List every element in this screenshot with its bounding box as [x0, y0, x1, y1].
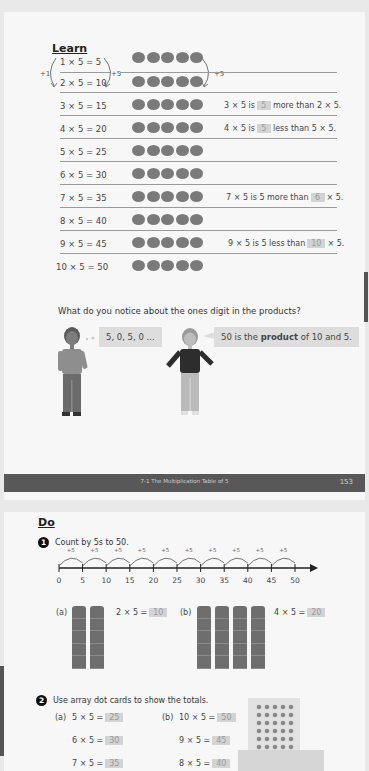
tick-label: 40	[243, 576, 253, 585]
row-divider	[60, 253, 337, 254]
tick-label: 5	[80, 576, 85, 585]
part-a-equation: 2 × 5 =10	[116, 608, 169, 617]
dot-card-base	[238, 750, 324, 771]
answer-box: 6	[311, 193, 325, 202]
dot-row-2	[132, 76, 203, 87]
q2-b-row-1: 10 × 5 =50	[179, 713, 238, 722]
dot-row-9	[132, 237, 203, 248]
q2-part-a-label: (a)	[55, 713, 66, 722]
row-divider	[60, 72, 110, 73]
tick-label: 10	[101, 576, 111, 585]
answer-box: 10	[307, 239, 325, 248]
dot-row-4	[132, 122, 203, 133]
chapter-tab-right	[364, 272, 368, 322]
answer-box: 25	[105, 713, 123, 722]
jump-label: +5	[161, 547, 169, 553]
tick-label: 15	[125, 576, 135, 585]
dot-row-10	[132, 260, 203, 271]
cube-tower	[233, 606, 247, 669]
part-b-equation: 4 × 5 =20	[274, 608, 327, 617]
tick-label: 20	[149, 576, 159, 585]
equation-row-8: 8 × 5 = 40	[60, 216, 107, 226]
row-divider	[120, 72, 337, 73]
answer-box: 50	[217, 713, 235, 722]
tick-label: 30	[196, 576, 206, 585]
jump-label: +5	[208, 547, 216, 553]
note-row-7: 7 × 5 is 5 more than6× 5.	[226, 193, 343, 202]
dot-row-7	[132, 191, 203, 202]
equation-row-10: 10 × 5 = 50	[56, 262, 108, 272]
answer-box: 5	[257, 124, 271, 133]
note-row-4: 4 × 5 is5less than 5 × 5.	[224, 124, 336, 133]
equation-row-6: 6 × 5 = 30	[60, 170, 107, 180]
cube-tower	[251, 606, 265, 669]
dot-array-icon	[256, 704, 296, 750]
row-divider	[60, 92, 337, 93]
textbook-page-154: Do 1Count by 5s to 50. +5 +5 +5 +5 +5 +5…	[4, 512, 365, 771]
note-row-9: 9 × 5 is 5 less than10× 5.	[228, 239, 344, 248]
jump-label: +5	[279, 547, 287, 553]
do-heading: Do	[38, 516, 55, 529]
tick-label: 25	[172, 576, 182, 585]
equation-row-7: 7 × 5 = 35	[60, 193, 107, 203]
dot-row-3	[132, 99, 203, 110]
part-a-label: (a)	[56, 608, 67, 617]
cube-tower	[72, 606, 86, 669]
jump-label: +5	[256, 547, 264, 553]
equation-row-4: 4 × 5 = 20	[60, 124, 107, 134]
question-2: 2Use array dot cards to show the totals.	[36, 690, 208, 709]
textbook-page-153: Learn +1 +5 +5 1 × 5 = 5 2 × 5 = 10 3 × …	[4, 12, 365, 500]
jump-label: +5	[114, 547, 122, 553]
row-divider	[60, 161, 337, 162]
page-footer: 7-1 The Multiplication Table of 5 153	[4, 474, 365, 492]
jump-label: +5	[67, 547, 75, 553]
page-number: 153	[340, 478, 353, 486]
q2-b-row-3: 8 × 5 =40	[179, 759, 232, 768]
jump-label: +5	[138, 547, 146, 553]
footer-lesson-title: 7-1 The Multiplication Table of 5	[4, 478, 365, 484]
answer-box: 20	[307, 608, 325, 617]
tick-label: 0	[57, 576, 62, 585]
row-divider	[60, 115, 337, 116]
row-divider	[60, 184, 337, 185]
cube-tower	[90, 606, 104, 669]
equation-row-9: 9 × 5 = 45	[60, 239, 107, 249]
q2-a-row-1: 5 × 5 =25	[72, 713, 125, 722]
question-number-2: 2	[36, 695, 47, 706]
q2-b-row-2: 9 × 5 =45	[179, 736, 232, 745]
answer-box: 40	[212, 759, 230, 768]
answer-box: 10	[149, 608, 167, 617]
equation-row-3: 3 × 5 = 15	[60, 101, 107, 111]
question-text: What do you notice about the ones digit …	[58, 306, 301, 316]
dot-row-8	[132, 214, 203, 225]
answer-box: 5	[257, 101, 271, 110]
note-row-3: 3 × 5 is5more than 2 × 5.	[224, 101, 341, 110]
q2-a-row-3: 7 × 5 =35	[72, 759, 125, 768]
equation-row-2: 2 × 5 = 10	[60, 78, 107, 88]
tick-label: 45	[267, 576, 277, 585]
q2-a-row-2: 6 × 5 =30	[72, 736, 125, 745]
cube-tower	[215, 606, 229, 669]
thought-dots-icon	[84, 334, 98, 342]
boy-speech-bubble: 5, 0, 5, 0 ...	[99, 327, 162, 347]
dot-row-5	[132, 145, 203, 156]
answer-box: 30	[105, 736, 123, 745]
chapter-tab-left	[0, 666, 4, 756]
tick-label: 35	[219, 576, 229, 585]
q2-part-b-label: (b)	[162, 713, 173, 722]
part-b-label: (b)	[180, 608, 191, 617]
jump-label: +5	[232, 547, 240, 553]
jump-label: +5	[185, 547, 193, 553]
row-divider	[60, 207, 337, 208]
equation-row-1: 1 × 5 = 5	[60, 57, 101, 67]
girl-speech-bubble: 50 is the product of 10 and 5.	[214, 327, 359, 347]
dot-row-6	[132, 168, 203, 179]
answer-box: 45	[212, 736, 230, 745]
equation-row-5: 5 × 5 = 25	[60, 147, 107, 157]
dot-row-1	[132, 52, 203, 63]
jump-label: +5	[90, 547, 98, 553]
answer-box: 35	[105, 759, 123, 768]
row-divider	[60, 230, 337, 231]
tick-label: 50	[290, 576, 300, 585]
row-divider	[60, 138, 337, 139]
